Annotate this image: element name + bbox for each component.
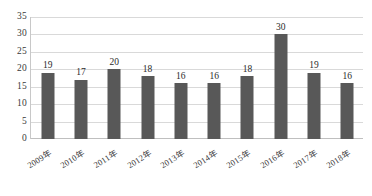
x-axis: 2009年2010年2011年2012年2013年2014年2015年2016年… bbox=[30, 139, 363, 196]
bar[interactable] bbox=[308, 73, 321, 139]
bar-value-label: 16 bbox=[209, 72, 219, 82]
bar[interactable] bbox=[74, 80, 87, 139]
bar[interactable] bbox=[41, 73, 54, 139]
bar-value-label: 20 bbox=[109, 58, 119, 68]
bar-value-label: 30 bbox=[276, 23, 286, 33]
bar-slot: 16 bbox=[164, 17, 197, 139]
y-axis: 35 30 25 20 15 10 5 0 bbox=[0, 17, 27, 139]
bar[interactable] bbox=[141, 76, 154, 139]
bar[interactable] bbox=[274, 34, 287, 139]
bar-slot: 19 bbox=[297, 17, 330, 139]
bar-value-label: 18 bbox=[243, 65, 253, 75]
x-tick-slot: 2015年 bbox=[230, 139, 263, 196]
y-tick-label: 20 bbox=[1, 65, 27, 75]
y-tick-label: 15 bbox=[1, 82, 27, 92]
bar-slot: 19 bbox=[31, 17, 64, 139]
bar-slot: 16 bbox=[331, 17, 364, 139]
x-tick-label: 2009年 bbox=[24, 146, 53, 170]
x-tick-slot: 2016年 bbox=[263, 139, 296, 196]
x-tick-slot: 2009年 bbox=[30, 139, 63, 196]
bar-value-label: 19 bbox=[309, 61, 319, 71]
x-tick-slot: 2018年 bbox=[330, 139, 363, 196]
x-tick-slot: 2014年 bbox=[197, 139, 230, 196]
y-tick-label: 5 bbox=[1, 117, 27, 127]
x-tick-slot: 2013年 bbox=[163, 139, 196, 196]
bar-slot: 20 bbox=[98, 17, 131, 139]
bar[interactable] bbox=[108, 69, 121, 139]
x-tick-slot: 2017年 bbox=[296, 139, 329, 196]
bar[interactable] bbox=[208, 83, 221, 139]
x-tick-slot: 2011年 bbox=[97, 139, 130, 196]
y-tick-label: 10 bbox=[1, 99, 27, 109]
bar-value-label: 16 bbox=[176, 72, 186, 82]
bar-slot: 18 bbox=[231, 17, 264, 139]
bar-value-label: 19 bbox=[43, 61, 53, 71]
bar[interactable] bbox=[341, 83, 354, 139]
y-tick-label: 25 bbox=[1, 47, 27, 57]
bar-value-label: 16 bbox=[343, 72, 353, 82]
bar-value-label: 18 bbox=[143, 65, 153, 75]
bar[interactable] bbox=[241, 76, 254, 139]
bar-chart: 35 30 25 20 15 10 5 0 191720181616183019… bbox=[0, 0, 372, 196]
y-tick-label: 0 bbox=[1, 134, 27, 144]
bar[interactable] bbox=[174, 83, 187, 139]
plot-area: 19172018161618301916 bbox=[30, 17, 363, 139]
y-tick-label: 35 bbox=[1, 12, 27, 22]
bar-slot: 16 bbox=[198, 17, 231, 139]
x-tick-slot: 2012年 bbox=[130, 139, 163, 196]
bar-slot: 17 bbox=[64, 17, 97, 139]
y-tick-label: 30 bbox=[1, 30, 27, 40]
bar-slot: 30 bbox=[264, 17, 297, 139]
bar-slot: 18 bbox=[131, 17, 164, 139]
x-tick-slot: 2010年 bbox=[63, 139, 96, 196]
bar-value-label: 17 bbox=[76, 68, 86, 78]
